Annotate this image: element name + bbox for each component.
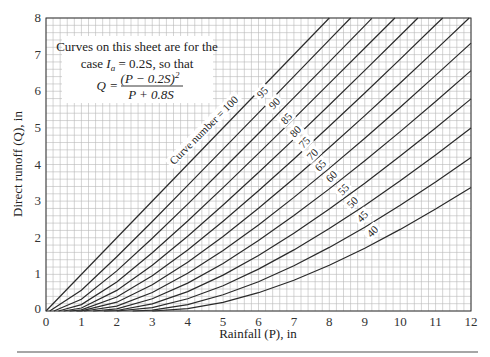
x-tick-label: 8 — [326, 314, 333, 329]
x-tick-label: 0 — [43, 314, 50, 329]
y-tick-label: 5 — [35, 120, 42, 135]
curve-cn-40 — [152, 187, 471, 311]
x-tick-label: 3 — [149, 314, 156, 329]
x-tick-label: 12 — [465, 314, 478, 329]
svg-text:Curve number = 100: Curve number = 100 — [167, 93, 240, 166]
y-tick-label: 3 — [35, 193, 42, 208]
curve-label-40: 40 — [362, 221, 382, 241]
x-tick-label: 10 — [394, 314, 407, 329]
annotation-line-1: Curves on this sheet are for the — [56, 39, 218, 54]
y-tick-label: 2 — [35, 230, 42, 245]
formula-lhs: Q = — [97, 78, 118, 93]
formula-denominator: P + 0.8S — [127, 87, 174, 102]
y-tick-label: 1 — [35, 266, 42, 281]
y-tick-label: 7 — [35, 47, 42, 62]
y-tick-label: 8 — [35, 10, 42, 25]
x-tick-label: 4 — [184, 314, 191, 329]
curve-labels: Curve number = 1009590858075706560555045… — [165, 82, 382, 241]
y-tick-labels: 012345678 — [35, 10, 42, 316]
curve-cn-45 — [133, 157, 471, 311]
formula-numerator: (P − 0.2S)2 — [121, 70, 180, 86]
x-axis-label: Rainfall (P), in — [219, 326, 297, 341]
x-tick-label: 2 — [114, 314, 121, 329]
y-axis-label: Direct runoff (Q), in — [10, 111, 25, 217]
y-tick-label: 4 — [35, 157, 42, 172]
x-tick-label: 11 — [429, 314, 442, 329]
x-tick-label: 9 — [362, 314, 369, 329]
y-tick-label: 6 — [35, 83, 42, 98]
y-tick-label: 0 — [35, 301, 42, 316]
x-tick-label: 1 — [78, 314, 85, 329]
runoff-chart: 0123456789101112 012345678 Curve number … — [0, 0, 490, 357]
